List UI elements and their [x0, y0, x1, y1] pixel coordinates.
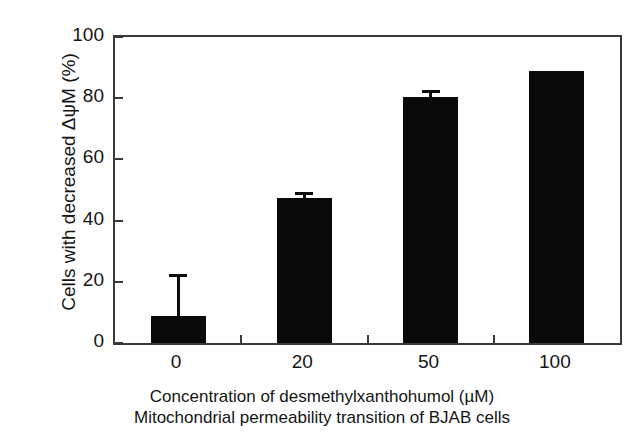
error-bar-stem	[177, 274, 180, 317]
x-axis-title: Concentration of desmethylxanthohumol (µ…	[0, 386, 644, 407]
bar	[403, 97, 458, 343]
x-axis-tick	[240, 335, 242, 344]
x-axis-tick-label: 0	[113, 350, 239, 374]
figure-caption: Mitochondrial permeability transition of…	[0, 407, 644, 428]
y-axis-tick-labels: 020406080100	[56, 0, 104, 447]
y-axis-tick	[114, 36, 123, 38]
x-axis-tick	[367, 335, 369, 344]
y-axis-tick-label: 80	[58, 86, 104, 105]
y-axis-tick	[114, 97, 123, 99]
y-axis-tick	[114, 342, 123, 344]
y-axis-tick-label: 60	[58, 147, 104, 166]
y-axis-tick	[114, 281, 123, 283]
bar-chart-figure: Cells with decreased ΔψM (%) 02040608010…	[0, 0, 644, 447]
bar	[277, 198, 332, 343]
error-bar-cap	[295, 192, 313, 195]
y-axis-tick	[114, 158, 123, 160]
error-bar-cap	[422, 90, 440, 93]
y-axis-tick-label: 40	[58, 209, 104, 228]
x-axis-tick-label: 100	[492, 350, 618, 374]
bar	[151, 316, 206, 343]
x-axis-tick-label: 20	[239, 350, 365, 374]
y-axis-tick	[114, 220, 123, 222]
y-axis-tick-label: 100	[58, 25, 104, 44]
y-axis-tick-label: 20	[58, 270, 104, 289]
x-axis-tick-labels: 02050100	[113, 350, 622, 378]
y-axis-tick-label: 0	[58, 331, 104, 350]
plot-area	[113, 35, 622, 345]
x-axis-tick-label: 50	[366, 350, 492, 374]
error-bar-cap	[169, 274, 187, 277]
x-axis-tick	[493, 335, 495, 344]
bar	[529, 71, 584, 343]
plot-inner	[115, 37, 620, 343]
